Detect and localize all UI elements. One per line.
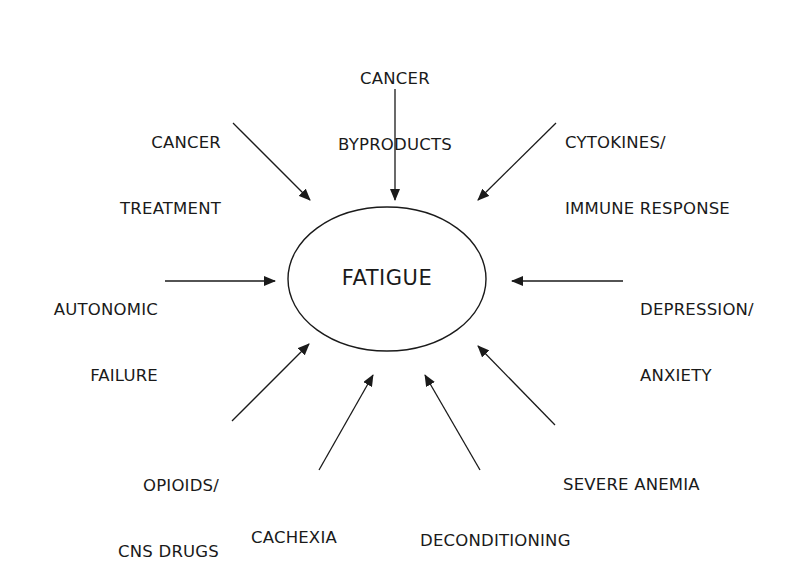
factor-line: CYTOKINES/ [565,132,785,154]
factor-depression-anxiety: DEPRESSION/ ANXIETY [640,255,790,409]
factor-line: TREATMENT [60,198,221,220]
factor-line: IMMUNE RESPONSE [565,198,785,220]
factor-line: AUTONOMIC [10,299,158,321]
factor-line: DECONDITIONING [420,530,620,552]
factor-line: ANXIETY [640,365,790,387]
factor-cancer-byproducts: CANCER BYPRODUCTS [320,24,470,178]
factor-line: OPIOIDS/ [60,475,219,497]
factor-line: FAILURE [10,365,158,387]
factor-cachexia: CACHEXIA [251,483,371,561]
factor-severe-anemia: SEVERE ANEMIA [563,430,743,518]
factor-cancer-treatment: CANCER TREATMENT [60,88,221,242]
fatigue-label: FATIGUE [300,266,474,290]
arrow-cancer-treatment [233,123,310,200]
factor-cytokines: CYTOKINES/ IMMUNE RESPONSE [565,88,785,242]
arrow-opioids [232,344,309,421]
factor-line: SEVERE ANEMIA [563,474,743,496]
factor-autonomic-failure: AUTONOMIC FAILURE [10,255,158,409]
factor-opioids: OPIOIDS/ CNS DRUGS [60,431,219,561]
arrow-cytokines [478,123,556,200]
arrow-deconditioning [425,375,480,470]
factor-line: CANCER [320,68,470,90]
factor-line: CNS DRUGS [60,541,219,561]
factor-line: CANCER [60,132,221,154]
arrow-cachexia [319,375,373,470]
arrow-severe-anemia [478,346,555,425]
factor-line: DEPRESSION/ [640,299,790,321]
factor-line: BYPRODUCTS [320,134,470,156]
factor-line: CACHEXIA [251,527,371,549]
